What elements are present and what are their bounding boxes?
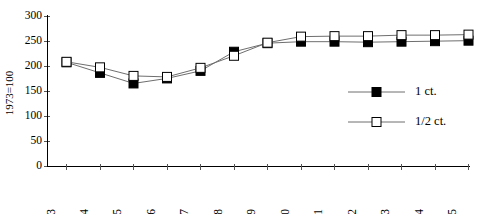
x-tick-label: 1987 bbox=[178, 209, 190, 214]
legend-label: 1/2 ct. bbox=[415, 114, 446, 128]
x-tick-label: 1984 bbox=[78, 209, 90, 214]
data-point-marker bbox=[230, 51, 239, 60]
y-axis-title: 1973=100 bbox=[3, 70, 15, 115]
x-tick-label: 1988 bbox=[212, 209, 224, 214]
data-point-marker bbox=[96, 63, 105, 72]
y-tick-label: 200 bbox=[25, 59, 43, 71]
chart-container: 1973=100 300 250 200 150 100 50 0 bbox=[0, 0, 477, 214]
data-point-marker bbox=[263, 38, 272, 47]
data-point-marker bbox=[297, 32, 306, 41]
y-axis-tick-labels: 300 250 200 150 100 50 0 bbox=[25, 9, 43, 171]
plot-series-layer bbox=[62, 30, 473, 88]
legend-marker-filled-square bbox=[372, 88, 381, 97]
y-tick-label: 300 bbox=[25, 9, 43, 21]
x-tick-label: 1995 bbox=[446, 209, 458, 214]
line-chart: 1973=100 300 250 200 150 100 50 0 bbox=[0, 0, 477, 214]
x-tick-label: 1994 bbox=[413, 209, 425, 214]
x-tick-label: 1983 bbox=[45, 209, 57, 214]
series-half-ct bbox=[62, 30, 473, 81]
legend-entry-1ct: 1 ct. bbox=[348, 84, 437, 98]
y-tick-label: 100 bbox=[25, 109, 43, 121]
y-tick-label: 150 bbox=[25, 84, 43, 96]
data-point-marker bbox=[464, 30, 473, 39]
x-tick-label: 1985 bbox=[111, 209, 123, 214]
x-tick-label: 1990 bbox=[279, 209, 291, 214]
x-tick-label: 1993 bbox=[379, 209, 391, 214]
data-point-marker bbox=[163, 72, 172, 81]
x-tick-label: 1991 bbox=[312, 209, 324, 214]
x-axis-tick-labels: 1983 1984 1985 1986 1987 1988 1989 1990 … bbox=[45, 209, 458, 214]
data-point-marker bbox=[196, 63, 205, 72]
legend-entry-half-ct: 1/2 ct. bbox=[348, 114, 446, 128]
y-tick-label: 0 bbox=[36, 159, 42, 171]
data-point-marker bbox=[62, 57, 71, 66]
y-tick-label: 250 bbox=[25, 34, 43, 46]
x-tick-label: 1986 bbox=[145, 209, 157, 214]
data-point-marker bbox=[129, 71, 138, 80]
chart-legend: 1 ct. 1/2 ct. bbox=[348, 84, 446, 128]
legend-label: 1 ct. bbox=[415, 84, 437, 98]
data-point-marker bbox=[330, 32, 339, 41]
legend-marker-open-square bbox=[372, 118, 381, 127]
data-point-marker bbox=[431, 31, 440, 40]
data-point-marker bbox=[397, 31, 406, 40]
x-tick-label: 1992 bbox=[346, 209, 358, 214]
x-tick-label: 1989 bbox=[245, 209, 257, 214]
y-tick-label: 50 bbox=[31, 134, 43, 146]
data-point-marker bbox=[364, 32, 373, 41]
